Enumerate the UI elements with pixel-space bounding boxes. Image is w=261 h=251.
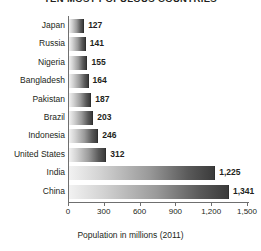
category-label: United States <box>0 149 65 159</box>
x-tick-label: 0 <box>66 207 70 216</box>
bar <box>69 185 229 199</box>
plot-area: Japan127Russia141Nigeria155Bangladesh164… <box>0 16 261 202</box>
bar <box>69 148 106 162</box>
bar-value-label: 203 <box>97 112 111 122</box>
bar-row: China1,341 <box>0 184 261 202</box>
bar-value-label: 155 <box>91 57 105 67</box>
bar <box>69 56 87 70</box>
x-tick <box>140 202 141 206</box>
bar-value-label: 127 <box>88 20 102 30</box>
x-tick-label: 600 <box>133 207 146 216</box>
bar <box>69 37 86 51</box>
bar <box>69 166 215 180</box>
x-tick-label: 1,200 <box>201 207 221 216</box>
bar <box>69 19 84 33</box>
bar-value-label: 1,341 <box>233 186 254 196</box>
category-label: Bangladesh <box>0 75 65 85</box>
bar-value-label: 164 <box>93 75 107 85</box>
bar-row: Indonesia246 <box>0 128 261 146</box>
bar-chart: TEN MOST POPULOUS COUNTRIES Japan127Russ… <box>0 0 261 251</box>
bar-row: Nigeria155 <box>0 55 261 73</box>
x-tick-label: 1,500 <box>237 207 257 216</box>
category-label: Brazil <box>0 112 65 122</box>
bar-value-label: 246 <box>102 130 116 140</box>
category-label: Nigeria <box>0 57 65 67</box>
bar-row: India1,225 <box>0 165 261 183</box>
x-axis-line <box>68 202 249 203</box>
chart-title: TEN MOST POPULOUS COUNTRIES <box>0 0 261 4</box>
category-label: India <box>0 167 65 177</box>
category-label: Indonesia <box>0 130 65 140</box>
bar-row: Pakistan187 <box>0 92 261 110</box>
category-label: Russia <box>0 38 65 48</box>
bar-rows: Japan127Russia141Nigeria155Bangladesh164… <box>0 18 261 202</box>
bar-row: Russia141 <box>0 36 261 54</box>
x-axis-title: Population in millions (2011) <box>0 230 261 240</box>
bar-row: Bangladesh164 <box>0 73 261 91</box>
category-label: Pakistan <box>0 94 65 104</box>
bar <box>69 129 98 143</box>
bar-value-label: 1,225 <box>219 167 240 177</box>
x-tick-label: 300 <box>97 207 110 216</box>
x-tick <box>104 202 105 206</box>
x-tick <box>247 202 248 206</box>
bar <box>69 93 91 107</box>
x-tick <box>211 202 212 206</box>
bar <box>69 111 93 125</box>
bar-row: United States312 <box>0 147 261 165</box>
x-tick <box>68 202 69 206</box>
bar <box>69 74 89 88</box>
bar-value-label: 187 <box>95 94 109 104</box>
bar-value-label: 141 <box>90 38 104 48</box>
bar-row: Japan127 <box>0 18 261 36</box>
bar-row: Brazil203 <box>0 110 261 128</box>
category-label: China <box>0 186 65 196</box>
x-tick-label: 900 <box>169 207 182 216</box>
bar-value-label: 312 <box>110 149 124 159</box>
category-label: Japan <box>0 20 65 30</box>
x-tick <box>175 202 176 206</box>
